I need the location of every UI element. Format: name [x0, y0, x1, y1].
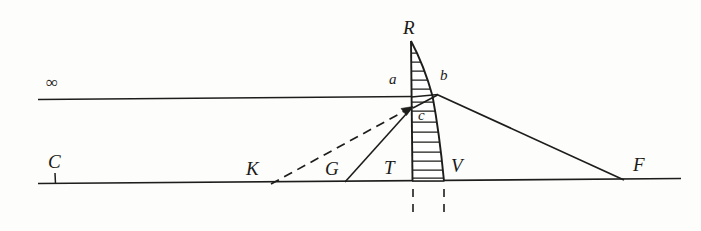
- optical-axis-line: [38, 179, 681, 184]
- label-c-inner: c: [418, 108, 425, 123]
- label-a: a: [389, 72, 397, 87]
- axis-tick-at-c: [55, 173, 56, 184]
- label-t: T: [384, 158, 395, 177]
- optics-ray-diagram: ∞ C K G T V F R a b c: [0, 0, 701, 231]
- label-f: F: [633, 155, 645, 174]
- diagram-canvas: [0, 0, 701, 231]
- label-infinity: ∞: [46, 74, 58, 91]
- refracted-ray-b-to-f: [437, 95, 624, 181]
- label-b: b: [440, 68, 448, 83]
- label-g: G: [325, 159, 339, 178]
- label-k: K: [246, 159, 259, 178]
- label-r: R: [403, 18, 415, 37]
- label-v: V: [451, 156, 463, 175]
- ray-g-to-c: [345, 108, 412, 183]
- label-c: C: [48, 152, 61, 171]
- incident-ray-from-infinity: [38, 97, 413, 100]
